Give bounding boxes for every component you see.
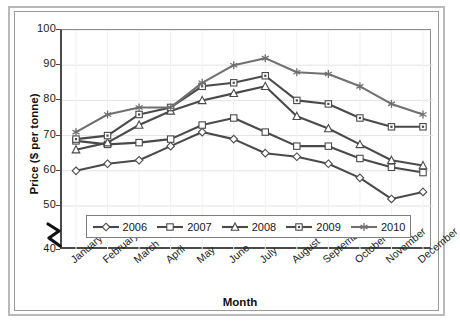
data-point-diamond <box>261 149 269 157</box>
data-point-diamond <box>230 135 238 143</box>
legend-label: 2008 <box>252 221 276 233</box>
y-axis-tick <box>56 170 60 171</box>
y-axis-tick-label: 100 <box>37 22 56 34</box>
legend-marker-square-icon <box>156 220 184 234</box>
data-point-square <box>420 169 426 175</box>
data-point-diamond <box>104 160 112 168</box>
data-point-square-dot <box>420 124 426 130</box>
legend-label: 2009 <box>316 221 340 233</box>
legend-marker-diamond-icon <box>92 220 120 234</box>
y-axis-tick <box>56 64 60 65</box>
data-point-square-dot <box>294 97 300 103</box>
data-point-diamond <box>167 142 175 150</box>
y-axis-tick-label: 80 <box>43 92 56 104</box>
data-point-square <box>262 129 268 135</box>
data-point-square <box>294 143 300 149</box>
legend-item-2009[interactable]: 2009 <box>285 220 340 234</box>
data-point-square <box>167 136 173 142</box>
legend-item-2010[interactable]: 2010 <box>350 220 405 234</box>
series-line <box>76 76 423 139</box>
legend-label: 2006 <box>123 221 147 233</box>
data-point-square <box>388 164 394 170</box>
data-point-square <box>199 122 205 128</box>
data-point-square-dot <box>104 132 110 138</box>
legend-item-2007[interactable]: 2007 <box>156 220 211 234</box>
data-point-square-dot <box>136 111 142 117</box>
legend-marker-triangle-icon <box>221 220 249 234</box>
legend-item-2008[interactable]: 2008 <box>221 220 276 234</box>
y-axis-tick <box>56 99 60 100</box>
legend-marker-asterisk-icon <box>350 220 378 234</box>
x-axis-title: Month <box>180 296 300 308</box>
y-axis-tick-label: 70 <box>43 128 56 140</box>
y-axis-tick-label: 90 <box>43 57 56 69</box>
data-point-diamond <box>198 128 206 136</box>
legend-label: 2010 <box>381 221 405 233</box>
data-point-square <box>325 143 331 149</box>
y-axis-tick-label: 50 <box>43 198 56 210</box>
data-point-square-dot <box>73 136 79 142</box>
y-axis-tick <box>56 29 60 30</box>
data-point-diamond <box>325 160 333 168</box>
y-axis-tick <box>56 135 60 136</box>
data-point-square <box>231 115 237 121</box>
legend-marker-square-dot-icon <box>285 220 313 234</box>
data-point-square-dot <box>325 101 331 107</box>
data-point-diamond <box>293 153 301 161</box>
data-point-diamond <box>419 188 427 196</box>
data-point-square-dot <box>357 115 363 121</box>
data-point-diamond <box>135 156 143 164</box>
data-point-diamond <box>72 167 80 175</box>
y-axis-tick <box>56 205 60 206</box>
chart-legend: 20062007200820092010 <box>86 215 411 238</box>
series-2006 <box>72 128 427 202</box>
y-axis-tick <box>56 249 60 250</box>
legend-item-2006[interactable]: 2006 <box>92 220 147 234</box>
data-point-square-dot <box>388 124 394 130</box>
y-axis-title: Price ($ per tonne) <box>28 64 40 224</box>
data-point-square-dot <box>296 223 302 229</box>
data-point-asterisk <box>73 128 80 136</box>
data-point-diamond <box>102 223 110 231</box>
data-point-square-dot <box>231 80 237 86</box>
series-line <box>76 132 423 199</box>
data-point-square <box>167 223 173 229</box>
legend-label: 2007 <box>187 221 211 233</box>
data-point-square <box>357 155 363 161</box>
data-point-square <box>136 139 142 145</box>
y-axis-tick-label: 60 <box>43 163 56 175</box>
data-point-square-dot <box>262 73 268 79</box>
axis-break-icon <box>44 222 66 252</box>
